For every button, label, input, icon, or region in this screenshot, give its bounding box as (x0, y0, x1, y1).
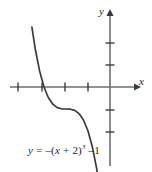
equation-equals: = (33, 144, 45, 156)
y-axis-label: y (99, 6, 104, 17)
equation-plus-sign: + (60, 144, 72, 156)
cubic-function-figure: y x y = –(x + 2)3 –1 (0, 0, 152, 172)
x-axis (10, 83, 141, 90)
y-axis-arrowhead (106, 9, 113, 16)
x-axis-label: x (139, 76, 144, 87)
equation-caption: y = –(x + 2)3 –1 (28, 145, 100, 156)
equation-tail: –1 (86, 144, 100, 156)
